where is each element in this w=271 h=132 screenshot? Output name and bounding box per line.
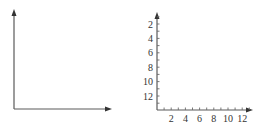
x-tick-label: 10: [223, 113, 233, 124]
left-x-arrow-icon: [105, 107, 112, 112]
x-tick-label: 4: [183, 113, 188, 124]
y-tick-label: 8: [148, 62, 153, 73]
y-tick-label: 2: [148, 19, 153, 30]
y-tick-label: 4: [148, 33, 153, 44]
y-tick-label: 10: [143, 76, 153, 87]
right-y-arrow-icon: [155, 12, 160, 19]
x-tick-label: 2: [169, 113, 174, 124]
left-y-arrow-icon: [12, 9, 17, 16]
chart-canvas: 24681012 24681012: [0, 0, 271, 132]
x-tick-label: 12: [237, 113, 247, 124]
y-tick-label: 12: [143, 91, 153, 102]
numbered-axes-chart: 24681012 24681012: [143, 12, 253, 124]
x-tick-label: 6: [197, 113, 202, 124]
y-tick-label: 6: [148, 47, 153, 58]
x-tick-label: 8: [211, 113, 216, 124]
y-axis-labels: 24681012: [143, 19, 153, 102]
x-axis-labels: 24681012: [169, 113, 248, 124]
blank-axes-chart: [12, 9, 113, 112]
